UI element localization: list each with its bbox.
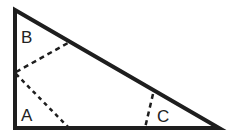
triangle-outline: [15, 10, 219, 128]
dashed-line-c: [145, 94, 153, 128]
triangle-diagram: B A C: [0, 0, 234, 140]
label-a: A: [21, 106, 33, 125]
label-c: C: [157, 107, 169, 126]
dashed-line-b: [16, 43, 68, 72]
label-b: B: [21, 28, 32, 47]
